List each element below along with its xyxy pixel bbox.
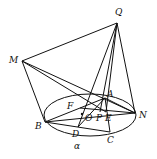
point-label-p: P [95,113,103,123]
point-label-m: M [8,55,19,65]
point-label-n: N [138,110,148,120]
point-labels: QMANBCDFOPE [8,7,148,145]
point-label-o: O [85,113,93,123]
segment-qn [117,23,135,113]
geometry-diagram: QMANBCDFOPE α [0,0,157,159]
segment-qm [22,23,117,61]
plane-label-alpha: α [74,141,80,151]
segment-qd [78,23,117,127]
point-label-d: D [71,129,79,139]
point-label-e: E [104,113,112,123]
point-label-a: A [106,89,114,99]
segments [22,23,135,132]
point-label-c: C [107,135,114,145]
point-label-b: B [34,121,42,131]
point-label-f: F [66,101,74,111]
center-point-o [81,113,83,115]
point-label-q: Q [115,7,123,17]
